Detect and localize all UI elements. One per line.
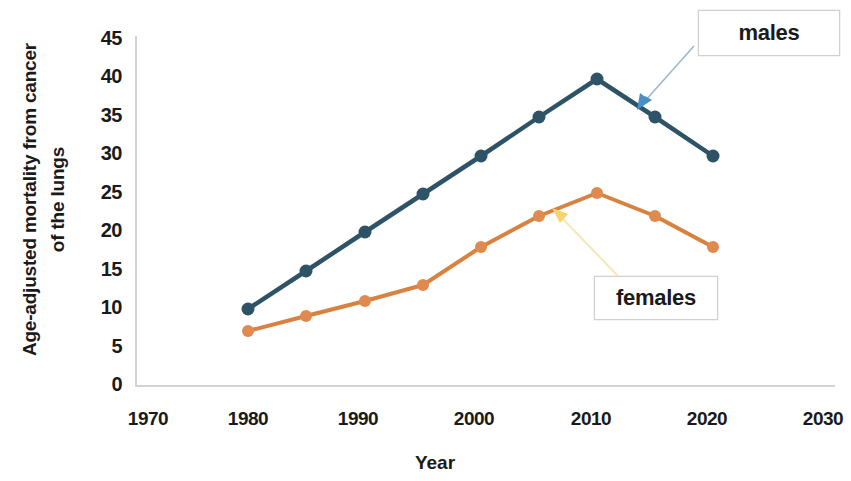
lung-cancer-mortality-line-chart: Age-adjusted mortality from cancer of th… bbox=[0, 0, 851, 481]
x-tick-1990: 1990 bbox=[318, 408, 398, 430]
series-line-males bbox=[248, 79, 713, 309]
x-tick-1970: 1970 bbox=[108, 408, 188, 430]
annotation-label-males[interactable]: males bbox=[698, 10, 840, 56]
x-tick-1980: 1980 bbox=[208, 408, 288, 430]
males-annotation-arrow-icon bbox=[637, 46, 694, 110]
x-tick-2030: 2030 bbox=[783, 408, 851, 430]
annotation-label-females[interactable]: females bbox=[594, 276, 718, 320]
x-axis-title: Year bbox=[380, 452, 490, 474]
x-tick-2000: 2000 bbox=[434, 408, 514, 430]
females-annotation-arrow-icon bbox=[552, 208, 618, 276]
x-tick-2020: 2020 bbox=[667, 408, 747, 430]
x-tick-2010: 2010 bbox=[551, 408, 631, 430]
